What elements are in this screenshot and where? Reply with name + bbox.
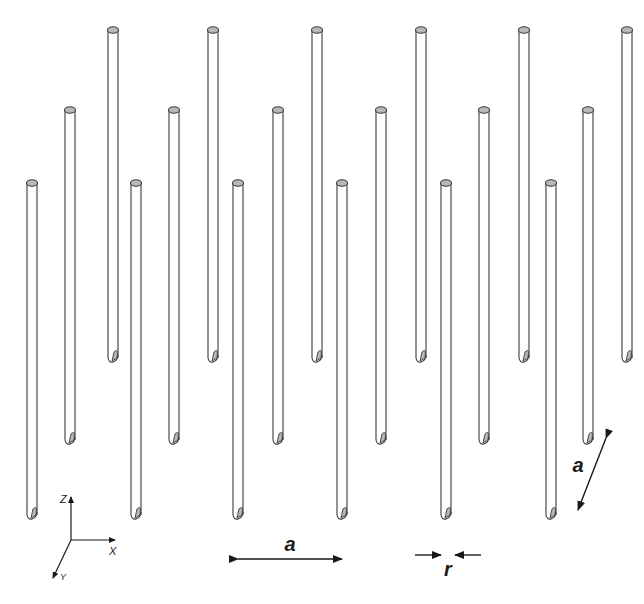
lattice-constant-y-dimension: a bbox=[572, 438, 606, 510]
axis-label-y: Y bbox=[60, 572, 67, 582]
rod bbox=[273, 107, 284, 444]
label-a-depth: a bbox=[572, 454, 583, 476]
rod bbox=[131, 180, 142, 519]
axis-triad: Z X Y bbox=[53, 493, 117, 582]
rod bbox=[65, 107, 76, 444]
rod bbox=[416, 27, 427, 362]
rod bbox=[27, 180, 38, 519]
axis-label-x: X bbox=[108, 545, 117, 557]
rod bbox=[376, 107, 387, 444]
rod bbox=[233, 180, 244, 519]
rod bbox=[583, 107, 594, 444]
rod bbox=[169, 107, 180, 444]
rod bbox=[622, 27, 633, 362]
rod bbox=[546, 180, 557, 519]
rod bbox=[108, 27, 119, 362]
label-a-horizontal: a bbox=[284, 533, 295, 555]
rod bbox=[208, 27, 219, 362]
axis-label-z: Z bbox=[59, 493, 68, 505]
lattice-constant-x-dimension: a bbox=[238, 533, 342, 559]
rod bbox=[519, 27, 530, 362]
rod-radius-dimension: r bbox=[415, 555, 481, 580]
label-r: r bbox=[444, 558, 453, 580]
rod bbox=[479, 107, 490, 444]
rod-lattice-diagram: a r a Z X Y bbox=[0, 0, 644, 604]
rod bbox=[441, 180, 452, 519]
rod bbox=[312, 27, 323, 362]
rods-layer bbox=[27, 27, 633, 519]
rod bbox=[337, 180, 348, 519]
